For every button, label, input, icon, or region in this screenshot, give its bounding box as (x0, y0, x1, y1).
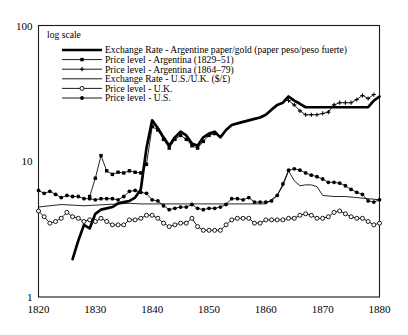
data-point-marker (145, 191, 149, 195)
data-point-marker (173, 206, 177, 210)
legend-label: Price level - U.S. (105, 92, 171, 103)
data-point-marker (162, 221, 166, 225)
data-point-marker (122, 223, 126, 227)
data-point-marker (241, 216, 245, 220)
data-point-marker (378, 221, 382, 225)
data-point-marker (230, 218, 234, 222)
data-point-marker (37, 209, 41, 213)
data-point-marker (270, 199, 274, 203)
data-point-marker (48, 189, 52, 193)
data-point-marker (65, 210, 69, 214)
data-point-marker (99, 197, 103, 201)
data-point-marker (287, 216, 291, 220)
data-point-marker (42, 191, 46, 195)
data-point-marker (139, 171, 142, 174)
data-point-marker (372, 200, 376, 204)
data-point-marker (343, 212, 347, 216)
data-point-marker (201, 208, 205, 212)
data-point-marker (99, 216, 103, 220)
data-point-marker (201, 228, 205, 232)
data-point-marker (150, 198, 154, 202)
data-point-marker (133, 188, 137, 192)
data-point-marker (235, 216, 239, 220)
data-point-marker (150, 125, 153, 128)
data-point-marker (224, 203, 228, 207)
data-point-marker (292, 216, 296, 220)
data-point-marker (184, 205, 188, 209)
data-point-marker (179, 134, 182, 137)
data-point-marker (332, 180, 336, 184)
data-point-marker (71, 215, 75, 219)
data-point-marker (93, 219, 97, 223)
data-point-marker (82, 219, 86, 223)
data-point-marker (287, 168, 291, 172)
data-point-marker (372, 223, 376, 227)
data-point-marker (156, 216, 160, 220)
data-point-marker (213, 206, 217, 210)
data-point-marker (116, 198, 120, 202)
data-point-marker (48, 221, 52, 225)
data-point-marker (218, 205, 222, 209)
data-point-marker (247, 216, 251, 220)
data-point-marker (184, 221, 188, 225)
data-point-marker (270, 218, 274, 222)
data-point-marker (76, 195, 80, 199)
data-point-marker (110, 223, 114, 227)
data-point-marker (218, 228, 222, 232)
data-point-marker (156, 128, 159, 131)
data-point-marker (332, 210, 336, 214)
data-point-marker (105, 169, 108, 172)
data-point-marker (65, 194, 69, 198)
data-point-marker (326, 215, 330, 219)
data-point-marker (54, 192, 58, 196)
y-tick-label: 10 (22, 155, 34, 167)
data-point-marker (207, 206, 211, 210)
data-point-marker (202, 140, 205, 143)
data-point-marker (264, 218, 268, 222)
data-point-marker (162, 204, 166, 208)
x-tick-label: 1880 (369, 303, 392, 315)
data-point-marker (105, 197, 109, 201)
x-tick-label: 1830 (84, 303, 107, 315)
data-point-marker (309, 173, 313, 177)
data-point-marker (236, 197, 240, 201)
data-point-marker (349, 215, 353, 219)
data-point-marker (304, 171, 308, 175)
data-point-marker (88, 197, 92, 201)
data-point-marker (230, 197, 234, 201)
data-point-marker (258, 200, 262, 204)
data-point-marker (42, 215, 46, 219)
chart-container: 100101 1820183018401850186018701880 log … (0, 0, 408, 335)
data-point-marker (162, 138, 165, 141)
data-point-marker (80, 96, 84, 100)
data-point-marker (139, 190, 143, 194)
data-point-marker (281, 218, 285, 222)
data-point-marker (196, 146, 199, 149)
data-point-marker (88, 218, 92, 222)
data-point-marker (54, 219, 58, 223)
data-point-marker (321, 216, 325, 220)
data-point-marker (190, 216, 194, 220)
y-tick-label: 100 (16, 20, 33, 32)
x-tick-label: 1820 (28, 303, 51, 315)
data-point-marker (196, 225, 200, 229)
data-point-marker (76, 216, 80, 220)
data-point-marker (127, 218, 131, 222)
data-point-marker (59, 196, 63, 200)
data-point-marker (122, 195, 126, 199)
data-point-marker (292, 167, 296, 171)
data-point-marker (213, 228, 217, 232)
data-point-marker (315, 216, 319, 220)
data-point-marker (360, 216, 364, 220)
data-point-marker (122, 171, 125, 174)
data-point-marker (80, 58, 83, 61)
data-point-marker (185, 138, 188, 141)
data-point-marker (224, 223, 228, 227)
data-point-marker (207, 228, 211, 232)
data-point-marker (207, 134, 210, 137)
data-point-marker (173, 223, 177, 227)
data-point-marker (116, 223, 120, 227)
data-point-marker (190, 203, 194, 207)
data-point-marker (173, 138, 176, 141)
exchange-rate-price-level-chart: 100101 1820183018401850186018701880 log … (0, 0, 408, 335)
